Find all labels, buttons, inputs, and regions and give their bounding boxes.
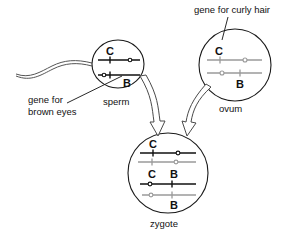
sperm-to-zygote-arrow <box>140 75 165 136</box>
zygote-allele-brown-paternal: B <box>170 168 178 180</box>
zygote-allele-curly-maternal: C <box>148 168 156 180</box>
ovum-allele-brown: B <box>236 78 244 90</box>
ovum-to-zygote-arrow <box>182 84 211 136</box>
gene-for-curly-hair-label: gene for curly hair <box>194 4 270 15</box>
ovum-label: ovum <box>219 103 242 114</box>
sperm-label: sperm <box>103 96 129 107</box>
ovum-cell <box>199 29 271 101</box>
sperm-allele-brown: B <box>123 77 131 89</box>
gene-for-brown-eyes-label-line2: brown eyes <box>28 106 77 117</box>
sperm-tail <box>16 61 92 79</box>
sperm-allele-curly: C <box>106 45 114 57</box>
zygote-label: zygote <box>150 218 178 229</box>
sperm-cell <box>92 40 144 88</box>
gene-for-brown-eyes-label-line1: gene for <box>28 94 63 105</box>
zygote-allele-brown-maternal: B <box>170 199 178 211</box>
zygote-cell <box>128 133 208 213</box>
diagram-canvas: gene for curly hair gene for brown eyes … <box>0 0 284 242</box>
ovum-membrane <box>199 29 271 101</box>
fertilization-diagram: gene for curly hair gene for brown eyes … <box>0 0 284 242</box>
ovum-allele-curly: C <box>215 45 223 57</box>
sperm-membrane <box>92 40 144 88</box>
zygote-allele-curly-paternal: C <box>149 138 157 150</box>
zygote-membrane <box>128 133 208 213</box>
